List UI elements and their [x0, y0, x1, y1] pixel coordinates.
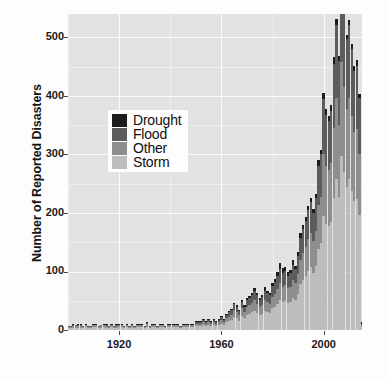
legend-label: Storm: [133, 155, 169, 169]
bar-segment-drought: [284, 267, 286, 271]
bar-column: [361, 322, 362, 330]
bar-segment-drought: [177, 324, 179, 325]
bar-segment-drought: [292, 260, 294, 265]
bar-segment-drought: [161, 324, 163, 325]
bar-segment-drought: [256, 293, 258, 295]
bar-segment-drought: [105, 324, 107, 325]
legend-swatch-storm: [112, 156, 127, 169]
bar-segment-storm: [358, 215, 360, 330]
x-axis-tick-label: 1960: [191, 338, 251, 350]
y-axis-tick-label: 500: [30, 31, 64, 42]
legend-item-drought: Drought: [112, 113, 181, 127]
bar-segment-drought: [146, 322, 148, 323]
x-axis-tick-label: 1920: [89, 338, 149, 350]
x-axis-tick-mark: [324, 331, 325, 335]
bar-segment-drought: [361, 322, 362, 323]
bar-segment-drought: [80, 324, 82, 325]
bar-segment-flood: [95, 324, 97, 325]
y-axis-tick-label: 200: [30, 207, 64, 218]
bar-column: [358, 94, 360, 330]
legend: DroughtFloodOtherStorm: [108, 110, 188, 172]
bar-segment-drought: [358, 94, 360, 99]
y-axis-tick-label: 300: [30, 148, 64, 159]
y-axis-tick-group: 0100200300400500: [28, 0, 64, 380]
bar-segment-drought: [236, 305, 238, 307]
bar-segment-drought: [241, 300, 243, 302]
bar-segment-flood: [141, 324, 143, 325]
legend-item-storm: Storm: [112, 155, 181, 169]
chart-figure: Number of Reported Disasters 01002003004…: [0, 0, 387, 380]
bar-segment-drought: [202, 319, 204, 320]
y-axis-tick-label: 0: [30, 324, 64, 335]
bar-segment-drought: [264, 287, 266, 291]
bar-segment-storm: [361, 327, 362, 330]
x-axis-tick-mark: [119, 331, 120, 335]
plot-panel: [68, 14, 362, 330]
bar-segment-drought: [220, 316, 222, 317]
bar-segment-drought: [322, 93, 324, 99]
bar-segment-drought: [253, 288, 255, 291]
bar-segment-flood: [161, 324, 163, 325]
x-axis-tick-mark: [221, 331, 222, 335]
y-axis-tick-label: 400: [30, 90, 64, 101]
bar-segment-flood: [177, 324, 179, 325]
legend-swatch-drought: [112, 114, 127, 127]
bar-segment-drought: [207, 319, 209, 320]
bar-segment-drought: [154, 324, 156, 325]
bar-segment-drought: [348, 20, 350, 25]
bar-segment-drought: [310, 198, 312, 203]
bar-segment-drought: [95, 324, 97, 325]
bar-segment-flood: [154, 324, 156, 325]
legend-item-flood: Flood: [112, 127, 181, 141]
bar-segment-flood: [358, 98, 360, 154]
legend-label: Flood: [133, 127, 167, 141]
bar-segment-drought: [131, 324, 133, 325]
bar-segment-other: [361, 325, 362, 327]
bar-segment-drought: [213, 319, 215, 320]
bar-segment-flood: [146, 322, 148, 324]
bar-segment-drought: [121, 324, 123, 325]
legend-label: Drought: [133, 113, 181, 127]
bar-segment-drought: [356, 60, 358, 66]
legend-label: Other: [133, 141, 167, 155]
bar-segment-flood: [121, 324, 123, 325]
bar-segment-flood: [131, 324, 133, 325]
y-axis-tick-label: 100: [30, 265, 64, 276]
bar-segment-other: [358, 154, 360, 215]
bar-segment-drought: [325, 109, 327, 114]
legend-item-other: Other: [112, 141, 181, 155]
bar-segment-drought: [335, 19, 337, 25]
bar-segment-drought: [351, 44, 353, 49]
legend-swatch-flood: [112, 128, 127, 141]
x-axis-tick-label: 2000: [294, 338, 354, 350]
bar-segment-flood: [85, 324, 87, 325]
bar-segment-flood: [126, 324, 128, 325]
bar-segment-flood: [110, 324, 112, 325]
bar-series-group: [68, 14, 362, 330]
bar-segment-drought: [141, 324, 143, 325]
legend-swatch-other: [112, 142, 127, 155]
bar-segment-drought: [85, 324, 87, 325]
bar-segment-drought: [110, 324, 112, 325]
bar-segment-drought: [126, 324, 128, 325]
bar-segment-flood: [361, 324, 362, 326]
y-axis-tick-mark: [64, 330, 68, 331]
